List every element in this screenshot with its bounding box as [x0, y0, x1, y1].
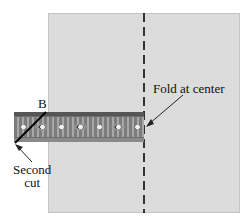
- annotation-layer: [0, 0, 250, 224]
- second-cut-label-line2: cut: [13, 176, 51, 189]
- second-cut-label: Second cut: [13, 163, 51, 189]
- fold-at-center-label: Fold at center: [153, 82, 224, 95]
- second-cut-line: [15, 112, 46, 143]
- point-b-label: B: [38, 97, 47, 110]
- second-cut-arrow-head-icon: [15, 144, 23, 151]
- fold-arrow-line: [149, 95, 183, 124]
